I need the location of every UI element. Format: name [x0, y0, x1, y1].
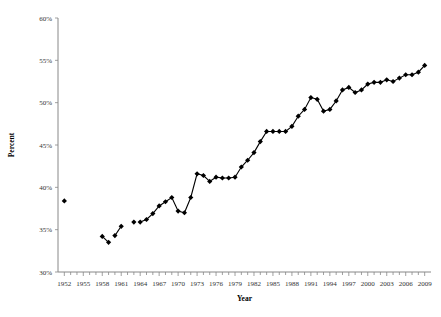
data-point-marker	[384, 77, 389, 82]
x-tick-label: 1958	[95, 280, 110, 288]
data-point-marker	[188, 195, 193, 200]
x-tick-label: 1976	[209, 280, 224, 288]
y-axis: 60%55%50%45%40%35%30%	[39, 15, 58, 277]
data-point-marker	[277, 129, 282, 134]
x-tick-label: 2006	[399, 280, 414, 288]
x-tick-label: 1991	[304, 280, 319, 288]
data-point-marker	[194, 171, 199, 176]
data-point-marker	[264, 129, 269, 134]
data-point-marker	[340, 87, 345, 92]
data-point-marker	[378, 80, 383, 85]
data-point-marker	[372, 80, 377, 85]
x-tick-label: 2000	[361, 280, 376, 288]
x-tick-label: 1952	[57, 280, 72, 288]
x-tick-label: 1979	[228, 280, 243, 288]
data-point-marker	[315, 97, 320, 102]
data-point-marker	[138, 219, 143, 224]
data-point-marker	[409, 72, 414, 77]
x-tick-label: 1994	[323, 280, 338, 288]
data-point-marker	[390, 79, 395, 84]
data-point-marker	[220, 175, 225, 180]
x-tick-label: 1970	[171, 280, 186, 288]
x-tick-label: 1973	[190, 280, 205, 288]
y-tick-label: 60%	[39, 15, 52, 23]
line-chart: 60%55%50%45%40%35%30% 195219551958196119…	[0, 0, 441, 317]
data-point-marker	[258, 139, 263, 144]
data-point-marker	[397, 76, 402, 81]
data-point-marker	[176, 208, 181, 213]
x-tick-label: 1964	[133, 280, 148, 288]
y-tick-label: 45%	[39, 142, 52, 150]
x-tick-label: 1982	[247, 280, 262, 288]
y-axis-title: Percent	[7, 132, 16, 157]
x-tick-label: 2009	[418, 280, 433, 288]
x-tick-label: 1967	[152, 280, 167, 288]
y-tick-label: 40%	[39, 184, 52, 192]
data-series	[62, 63, 428, 245]
data-point-marker	[131, 219, 136, 224]
data-point-marker	[403, 72, 408, 77]
x-axis-title: Year	[237, 294, 253, 303]
data-point-marker	[182, 210, 187, 215]
data-point-marker	[232, 175, 237, 180]
y-tick-label: 35%	[39, 226, 52, 234]
data-point-marker	[308, 95, 313, 100]
x-tick-label: 2003	[380, 280, 395, 288]
data-point-marker	[270, 129, 275, 134]
y-tick-label: 55%	[39, 57, 52, 65]
series-line-segment	[140, 65, 424, 222]
x-axis: 1952195519581961196419671970197319761979…	[57, 272, 432, 288]
x-tick-label: 1985	[266, 280, 281, 288]
chart-container: 60%55%50%45%40%35%30% 195219551958196119…	[0, 0, 441, 317]
y-tick-label: 50%	[39, 99, 52, 107]
data-point-marker	[226, 175, 231, 180]
x-tick-label: 1988	[285, 280, 300, 288]
data-point-marker	[321, 109, 326, 114]
x-tick-label: 1955	[76, 280, 91, 288]
data-point-marker	[62, 198, 67, 203]
x-tick-label: 1961	[114, 280, 129, 288]
y-tick-label: 30%	[39, 269, 52, 277]
x-tick-label: 1997	[342, 280, 357, 288]
